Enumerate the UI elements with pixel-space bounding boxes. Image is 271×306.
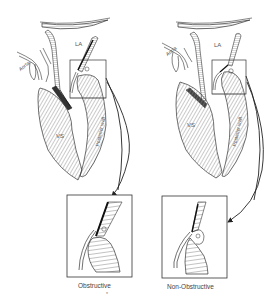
enlarged-view-obstructive xyxy=(67,195,132,277)
label-vs-obstructive: VS xyxy=(56,133,64,139)
caption-non-obstructive: Non-Obstructive xyxy=(167,284,214,291)
label-left-atrium-non-obstructive: LA xyxy=(214,42,221,48)
label-left-atrium-obstructive: LA xyxy=(75,41,82,47)
label-vs-non-obstructive: VS xyxy=(187,122,195,128)
heart-obstructive xyxy=(17,18,129,196)
caption-obstructive: Obstructive xyxy=(78,283,111,290)
diagram-drawing xyxy=(0,0,271,306)
footnote-mark: * xyxy=(106,291,108,297)
heart-diagram-figure: LA Aorta VS Posterior wall LA Aorta VS P… xyxy=(0,0,271,306)
enlarged-view-non-obstructive xyxy=(162,196,227,278)
